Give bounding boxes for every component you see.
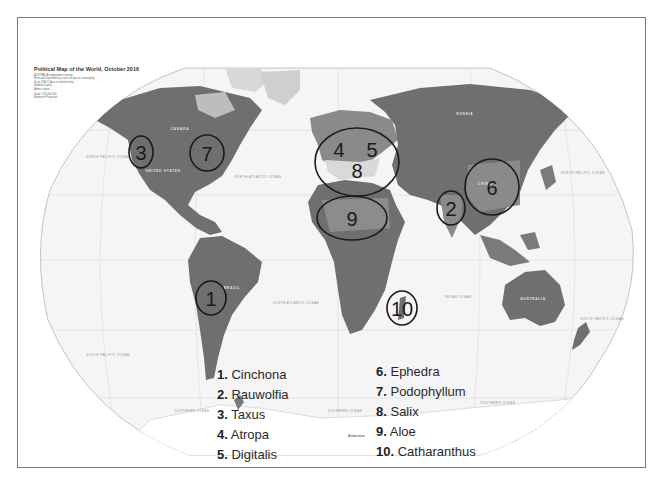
svg-text:SOUTH PACIFIC OCEAN: SOUTH PACIFIC OCEAN [86, 353, 130, 357]
legend-item-4: 4. Atropa [217, 425, 289, 445]
marker-label-6: 6 [486, 177, 497, 199]
svg-text:SOUTHERN OCEAN: SOUTHERN OCEAN [175, 409, 210, 413]
legend-item-6: 6. Ephedra [376, 362, 476, 382]
svg-text:SOUTHERN OCEAN: SOUTHERN OCEAN [328, 409, 363, 413]
svg-text:NORTH ATLANTIC OCEAN: NORTH ATLANTIC OCEAN [235, 175, 282, 179]
svg-text:Antarctica: Antarctica [347, 434, 365, 438]
marker-label-7: 7 [201, 143, 212, 165]
legend-item-1: 1. Cinchona [217, 365, 289, 385]
marker-label-5: 5 [366, 139, 377, 161]
svg-text:AUSTRALIA: AUSTRALIA [520, 297, 546, 301]
ocean-label: NORTH PACIFIC OCEAN [86, 155, 130, 159]
legend-item-5: 5. Digitalis [217, 445, 289, 465]
svg-text:CANADA: CANADA [171, 127, 190, 131]
svg-text:INDIAN OCEAN: INDIAN OCEAN [444, 295, 471, 299]
svg-text:SOUTHERN OCEAN: SOUTHERN OCEAN [481, 401, 516, 405]
legend-item-9: 9. Aloe [376, 422, 476, 442]
marker-label-8: 8 [351, 160, 362, 182]
world-map: NORTH PACIFIC OCEAN NORTH ATLANTIC OCEAN… [0, 0, 660, 483]
svg-text:SOUTH ATLANTIC OCEAN: SOUTH ATLANTIC OCEAN [273, 301, 319, 305]
map-key: AUSTRALIA Independent country Bermuda De… [34, 74, 94, 100]
legend-item-7: 7. Podophyllum [376, 382, 476, 402]
svg-text:NORTH PACIFIC OCEAN: NORTH PACIFIC OCEAN [561, 171, 605, 175]
map-title: Political Map of the World, October 2016 [34, 66, 139, 72]
legend-item-10: 10. Catharanthus [376, 442, 476, 462]
svg-text:UNITED STATES: UNITED STATES [145, 169, 180, 173]
marker-label-1: 1 [205, 288, 216, 310]
legend-column-2: 6. Ephedra 7. Podophyllum 8. Salix 9. Al… [376, 362, 476, 462]
legend-item-3: 3. Taxus [217, 405, 289, 425]
marker-label-2: 2 [445, 198, 456, 220]
marker-label-9: 9 [346, 208, 357, 230]
legend-item-2: 2. Rauwolfia [217, 385, 289, 405]
legend-column-1: 1. Cinchona 2. Rauwolfia 3. Taxus 4. Atr… [217, 365, 289, 465]
svg-text:BRAZIL: BRAZIL [224, 286, 241, 290]
marker-label-3: 3 [135, 142, 146, 164]
svg-text:RUSSIA: RUSSIA [457, 112, 474, 116]
projection-note: Robinson Projection [34, 96, 94, 99]
legend-item-8: 8. Salix [376, 402, 476, 422]
marker-label-4: 4 [333, 139, 344, 161]
marker-label-10: 10 [391, 298, 413, 320]
svg-text:SOUTH PACIFIC OCEAN: SOUTH PACIFIC OCEAN [580, 317, 624, 321]
